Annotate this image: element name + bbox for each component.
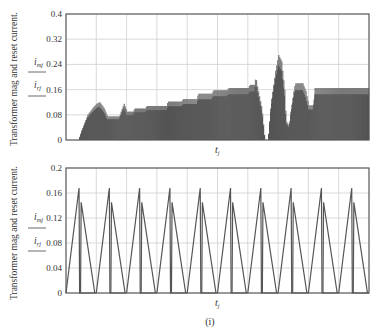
top-ripple-bar-dark — [103, 112, 104, 140]
top-ripple-bar-dark — [166, 110, 167, 140]
top-ripple-bar-dark — [303, 92, 304, 140]
top-ripple-bar-dark — [363, 94, 364, 140]
top-ripple-bar-dark — [90, 114, 91, 140]
top-ripple-bar-dark — [218, 96, 219, 140]
top-ripple-bar-dark — [155, 110, 156, 140]
top-ripple-bar-dark — [331, 94, 332, 140]
top-ripple-bar-dark — [229, 94, 230, 140]
top-ripple-bar-dark — [190, 104, 191, 140]
top-ripple-bar-dark — [98, 107, 99, 140]
top-ripple-bar-dark — [135, 112, 136, 140]
top-ripple-bar-dark — [93, 111, 94, 140]
top-ripple-bar-dark — [106, 118, 107, 140]
top-ripple-bar-dark — [233, 94, 234, 140]
top-ripple-bar-dark — [323, 94, 324, 140]
top-ripple-bar-dark — [238, 94, 239, 140]
top-ripple-bar-dark — [228, 95, 229, 140]
top-ripple-bar-dark — [184, 104, 185, 140]
top-ripple-bar-dark — [252, 91, 253, 140]
top-ripple-bar-dark — [195, 104, 196, 140]
top-ripple-bar-dark — [332, 94, 333, 140]
top-ripple-bar-dark — [111, 119, 112, 140]
top-ripple-bar-dark — [261, 110, 262, 140]
top-ripple-bar-dark — [226, 96, 227, 140]
top-ripple-bar-dark — [156, 110, 157, 140]
top-ripple-bar-dark — [153, 110, 154, 140]
top-ripple-bar-dark — [124, 108, 125, 140]
top-ripple-bar-dark — [205, 99, 206, 140]
top-ripple-bar-dark — [360, 94, 361, 140]
top-ripple-bar-dark — [263, 126, 264, 140]
top-ripple-bar-dark — [352, 94, 353, 140]
top-chart: 00.080.160.240.320.4 Transformer mag and… — [9, 9, 369, 156]
top-ripple-bar-dark — [276, 74, 277, 140]
bottom-y-tick-label: 0.12 — [46, 213, 62, 223]
top-legend-irj: irj — [34, 80, 41, 91]
top-ripple-bar-dark — [298, 90, 299, 140]
top-ripple-bar-dark — [288, 127, 289, 140]
top-ripple-bar-dark — [196, 104, 197, 140]
top-ripple-bar-dark — [283, 87, 284, 140]
bottom-y-tick-label: 0.16 — [46, 188, 62, 198]
top-ripple-bar-dark — [209, 99, 210, 140]
top-ripple-bar-dark — [122, 113, 123, 140]
top-ripple-bar-dark — [120, 118, 121, 140]
top-ripple-bar-dark — [251, 91, 252, 140]
top-x-axis-label: tj — [215, 144, 220, 156]
top-ripple-bar-dark — [178, 106, 179, 140]
top-ripple-bar-dark — [165, 110, 166, 140]
bottom-chart: 00.040.080.120.160.2 Transformer mag and… — [9, 163, 369, 309]
top-ripple-bar-dark — [101, 109, 102, 140]
top-ripple-bar-dark — [230, 94, 231, 140]
top-ripple-bar-dark — [172, 106, 173, 140]
top-ripple-bar-dark — [258, 97, 259, 140]
top-ripple-bar-dark — [107, 119, 108, 140]
top-ripple-bar-dark — [212, 97, 213, 140]
top-ripple-bar-dark — [237, 94, 238, 140]
top-ripple-bar-dark — [341, 94, 342, 140]
top-ripple-bar-dark — [308, 110, 309, 140]
top-ripple-bar-dark — [367, 94, 368, 140]
top-ripple-bar-dark — [193, 104, 194, 140]
top-ripple-bar-dark — [170, 106, 171, 140]
top-ripple-bar-dark — [102, 110, 103, 140]
top-ripple-bar-dark — [150, 110, 151, 140]
top-ripple-bar-dark — [346, 94, 347, 140]
top-ripple-bar-dark — [171, 106, 172, 140]
top-ripple-bar-dark — [86, 120, 87, 140]
top-ripple-bar-dark — [177, 106, 178, 140]
top-y-tick-label: 0.24 — [46, 59, 62, 69]
top-ripple-bar-dark — [164, 110, 165, 140]
top-y-tick-label: 0.08 — [46, 110, 62, 120]
top-y-tick-label: 0.16 — [46, 85, 62, 95]
top-ripple-bar-dark — [227, 96, 228, 140]
top-ripple-bar-dark — [132, 115, 133, 140]
top-ripple-bar-dark — [191, 104, 192, 140]
top-ripple-bar-dark — [115, 119, 116, 140]
top-ripple-bar-dark — [82, 129, 83, 140]
top-ripple-bar-dark — [139, 112, 140, 140]
top-ripple-bar-dark — [223, 96, 224, 140]
top-ripple-bar-dark — [138, 112, 139, 140]
top-y-axis-label: Transformer mag and reset current. — [9, 12, 19, 146]
top-ripple-bar-dark — [269, 123, 270, 140]
top-ripple-bar-dark — [278, 65, 279, 140]
top-ripple-bar-dark — [280, 69, 281, 140]
top-ripple-bar-dark — [149, 110, 150, 140]
top-ripple-bar-dark — [246, 94, 247, 140]
top-ripple-bar-dark — [260, 106, 261, 140]
top-ripple-bar-dark — [361, 94, 362, 140]
top-ripple-bar-dark — [125, 110, 126, 140]
top-ripple-bar-dark — [254, 91, 255, 140]
top-ripple-bar-dark — [216, 96, 217, 140]
top-ripple-bar-dark — [302, 90, 303, 140]
bottom-legend: imj irj — [28, 212, 46, 251]
top-ripple-bar-dark — [197, 101, 198, 140]
top-ripple-bar-dark — [244, 94, 245, 140]
top-ripple-bar-dark — [316, 94, 317, 140]
top-ripple-bar-dark — [253, 91, 254, 140]
top-ripple-bar-dark — [322, 94, 323, 140]
top-ripple-bar-dark — [224, 96, 225, 140]
bottom-y-ticks: 00.040.080.120.160.2 — [46, 163, 62, 298]
reset-current-line — [81, 202, 368, 293]
